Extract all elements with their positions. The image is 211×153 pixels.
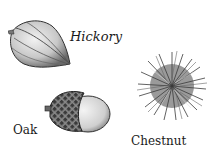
hickory-nut-icon xyxy=(8,18,72,70)
acorn-icon xyxy=(44,89,112,135)
oak-label: Oak xyxy=(13,123,37,137)
hickory-label: Hickory xyxy=(70,29,122,44)
chestnut-label: Chestnut xyxy=(131,134,186,148)
chestnut-burr-icon xyxy=(136,50,208,122)
